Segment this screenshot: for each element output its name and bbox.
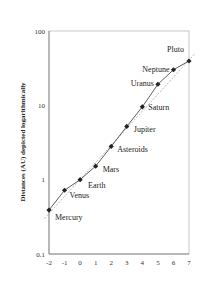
point-label-mars: Mars	[103, 165, 119, 174]
x-tick-label: -1	[62, 259, 68, 267]
point-label-saturn: Saturn	[148, 103, 169, 112]
x-tick-label: 2	[109, 259, 113, 267]
y-tick-label: 0.1	[36, 251, 45, 259]
point-label-asteroids: Asteroids	[117, 145, 148, 154]
x-tick-label: 4	[141, 259, 145, 267]
x-tick-label: 3	[125, 259, 129, 267]
point-label-jupiter: Jupiter	[134, 125, 156, 134]
chart: -2-1012345670.1110100 MercuryVenusEarthM…	[0, 0, 208, 284]
x-tick-label: 1	[94, 259, 98, 267]
point-label-venus: Venus	[70, 191, 90, 200]
data-point-marker	[186, 58, 191, 63]
x-tick-label: 7	[187, 259, 191, 267]
y-axis-label: Distances (AU) depicted logarithmically	[19, 82, 27, 202]
point-labels: MercuryVenusEarthMarsAsteroidsJupiterSat…	[55, 45, 184, 222]
x-tick-label: -2	[46, 259, 52, 267]
y-tick-label: 100	[35, 28, 46, 36]
y-tick-label: 10	[38, 102, 46, 110]
x-tick-label: 0	[78, 259, 82, 267]
y-tick-label: 1	[42, 176, 46, 184]
point-label-neptune: Neptune	[142, 65, 170, 74]
point-label-uranus: Uranus	[131, 79, 154, 88]
x-tick-label: 5	[156, 259, 160, 267]
point-label-pluto: Pluto	[167, 45, 184, 54]
point-label-earth: Earth	[88, 181, 105, 190]
point-label-mercury: Mercury	[55, 213, 83, 222]
x-tick-label: 6	[172, 259, 176, 267]
